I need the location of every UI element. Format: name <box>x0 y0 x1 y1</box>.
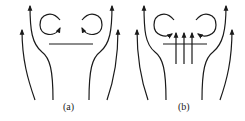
outer-left-streamline <box>22 30 35 100</box>
inner-right-streamline <box>202 6 226 100</box>
right-vortex <box>196 14 216 36</box>
panel-a <box>22 6 118 100</box>
inner-right-streamline <box>89 6 112 100</box>
flow-diagram <box>0 0 245 121</box>
left-vortex <box>40 14 60 34</box>
panel-a-label: (a) <box>63 101 74 112</box>
right-vortex <box>82 14 102 34</box>
outer-left-streamline <box>137 30 148 100</box>
panel-b <box>137 6 232 100</box>
inner-left-streamline <box>30 6 53 100</box>
left-vortex <box>154 14 174 36</box>
panel-b-label: (b) <box>178 101 190 112</box>
